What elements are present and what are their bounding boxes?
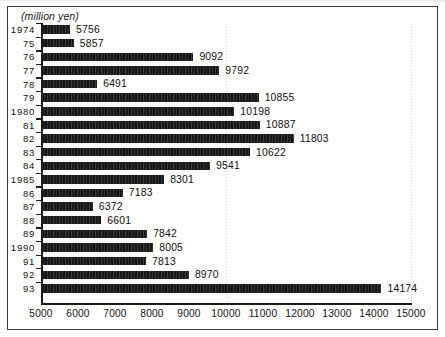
bar-value-label: 6372	[99, 201, 123, 212]
year-label: 89	[1, 228, 35, 239]
year-label: 83	[1, 147, 35, 158]
bar-value-label: 11803	[300, 133, 329, 144]
y-axis-tick	[36, 241, 41, 242]
bar	[42, 230, 147, 238]
chart-row: 917813	[0, 255, 445, 269]
bar	[42, 216, 101, 224]
y-axis-tick	[36, 132, 41, 133]
y-axis-tick	[36, 118, 41, 119]
bar-value-label: 9792	[225, 65, 249, 76]
chart-row: 19858301	[0, 173, 445, 187]
year-label: 81	[1, 120, 35, 131]
chart-row: 779792	[0, 64, 445, 78]
bar-value-label: 7842	[153, 228, 177, 239]
bar-value-label: 8970	[195, 269, 219, 280]
bar-value-label: 10855	[265, 92, 295, 103]
bar-value-label: 5857	[80, 38, 104, 49]
bar	[42, 39, 74, 47]
bar	[42, 80, 97, 88]
bar	[42, 121, 260, 129]
y-axis-tick	[36, 50, 41, 51]
year-label: 1974	[1, 24, 35, 35]
year-label: 87	[1, 201, 35, 212]
y-axis-tick	[36, 200, 41, 201]
y-axis-tick	[36, 282, 41, 283]
bar	[42, 162, 210, 170]
bar-value-label: 8301	[170, 174, 194, 185]
bar-value-label: 9541	[216, 160, 240, 171]
y-axis-tick	[36, 173, 41, 174]
chart-row: 8110887	[0, 118, 445, 132]
bar	[42, 93, 259, 101]
year-label: 93	[1, 283, 35, 294]
bar-value-label: 10198	[240, 106, 270, 117]
bar	[42, 271, 189, 279]
chart-row: 928970	[0, 268, 445, 282]
bar-value-label: 14174	[387, 283, 417, 294]
bar-value-label: 8005	[159, 242, 183, 253]
bar-value-label: 6601	[107, 215, 131, 226]
chart-row: 769092	[0, 50, 445, 64]
bar	[42, 202, 93, 210]
bar-chart-figure: (million yen) 19745756755857769092779792…	[0, 0, 445, 337]
bar	[42, 134, 294, 142]
chart-row: 849541	[0, 159, 445, 173]
bar-value-label: 5756	[76, 24, 100, 35]
bar-value-label: 6491	[103, 78, 127, 89]
year-label: 1980	[1, 106, 35, 117]
y-axis-tick	[36, 186, 41, 187]
year-label: 88	[1, 215, 35, 226]
bar-value-label: 10887	[266, 119, 296, 130]
year-label: 76	[1, 51, 35, 62]
y-axis-tick	[36, 37, 41, 38]
year-label: 82	[1, 133, 35, 144]
year-label: 86	[1, 188, 35, 199]
bar	[42, 25, 70, 33]
bar	[42, 66, 219, 74]
year-label: 1985	[1, 174, 35, 185]
chart-row: 786491	[0, 77, 445, 91]
chart-row: 886601	[0, 214, 445, 228]
y-axis-tick	[36, 214, 41, 215]
bar	[42, 243, 153, 251]
bar	[42, 53, 193, 61]
chart-row: 198010198	[0, 105, 445, 119]
y-axis-tick	[36, 227, 41, 228]
x-tick-label: 15000	[387, 308, 435, 319]
year-label: 91	[1, 256, 35, 267]
chart-row: 8310622	[0, 146, 445, 160]
y-axis-tick	[36, 23, 41, 24]
y-axis-tick	[36, 91, 41, 92]
chart-row: 867183	[0, 186, 445, 200]
year-label: 1990	[1, 242, 35, 253]
bar-value-label: 7183	[129, 187, 153, 198]
year-label: 79	[1, 92, 35, 103]
chart-row: 19745756	[0, 23, 445, 37]
chart-row: 876372	[0, 200, 445, 214]
chart-row: 19908005	[0, 241, 445, 255]
chart-row: 755857	[0, 37, 445, 51]
bar	[42, 175, 164, 183]
year-label: 84	[1, 160, 35, 171]
y-axis-tick	[36, 268, 41, 269]
year-label: 75	[1, 38, 35, 49]
y-axis-tick	[36, 255, 41, 256]
year-label: 77	[1, 65, 35, 76]
y-axis-tick	[36, 64, 41, 65]
bar	[42, 284, 381, 292]
year-label: 78	[1, 79, 35, 90]
plot-area: 1974575675585776909277979278649179108551…	[0, 0, 445, 337]
y-axis-tick	[36, 159, 41, 160]
y-axis-tick	[36, 146, 41, 147]
bar-value-label: 9092	[199, 51, 223, 62]
bar-value-label: 10622	[256, 147, 286, 158]
bar	[42, 257, 146, 265]
chart-row: 7910855	[0, 91, 445, 105]
bar-value-label: 7813	[152, 256, 176, 267]
chart-row: 8211803	[0, 132, 445, 146]
bar	[42, 107, 234, 115]
y-axis-tick	[36, 105, 41, 106]
chart-row: 897842	[0, 227, 445, 241]
y-axis-tick	[36, 77, 41, 78]
x-axis-line	[41, 303, 412, 305]
